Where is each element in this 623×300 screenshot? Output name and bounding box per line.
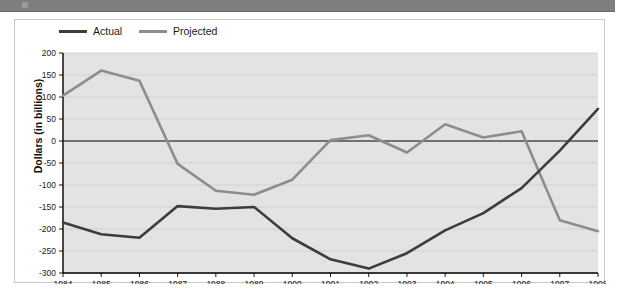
svg-text:50: 50 xyxy=(47,114,57,124)
svg-text:-100: -100 xyxy=(39,180,56,190)
svg-text:1997: 1997 xyxy=(550,279,569,284)
svg-text:150: 150 xyxy=(42,70,56,80)
svg-text:-300: -300 xyxy=(39,268,56,278)
svg-text:1986: 1986 xyxy=(130,279,149,284)
svg-text:-200: -200 xyxy=(39,224,56,234)
svg-text:1996: 1996 xyxy=(512,279,531,284)
svg-text:-50: -50 xyxy=(44,158,57,168)
svg-text:-150: -150 xyxy=(39,202,56,212)
svg-text:1991: 1991 xyxy=(321,279,340,284)
svg-text:1984: 1984 xyxy=(54,279,73,284)
svg-text:1987: 1987 xyxy=(168,279,187,284)
svg-text:100: 100 xyxy=(42,92,56,102)
svg-text:1988: 1988 xyxy=(206,279,225,284)
x-axis-ticks: 1984198519861987198819891990199119921993… xyxy=(54,273,606,284)
svg-text:1998: 1998 xyxy=(589,279,606,284)
svg-text:0: 0 xyxy=(51,136,56,146)
svg-text:1989: 1989 xyxy=(245,279,264,284)
banner-marker-icon xyxy=(22,2,28,8)
svg-text:-250: -250 xyxy=(39,246,56,256)
plot-area-wrapper: Dollars (in billions) 200150100500-50-10… xyxy=(15,20,606,284)
svg-text:1985: 1985 xyxy=(92,279,111,284)
svg-text:1994: 1994 xyxy=(436,279,455,284)
svg-text:1993: 1993 xyxy=(397,279,416,284)
chart-figure-card: Actual Projected Dollars (in billions) 2… xyxy=(14,19,605,283)
line-chart-svg: 200150100500-50-100-150-200-250-300 1984… xyxy=(15,20,606,284)
svg-text:200: 200 xyxy=(42,48,56,58)
svg-text:1990: 1990 xyxy=(283,279,302,284)
svg-text:1992: 1992 xyxy=(359,279,378,284)
y-axis-ticks: 200150100500-50-100-150-200-250-300 xyxy=(39,48,63,278)
svg-text:1995: 1995 xyxy=(474,279,493,284)
top-gray-banner xyxy=(0,0,615,12)
